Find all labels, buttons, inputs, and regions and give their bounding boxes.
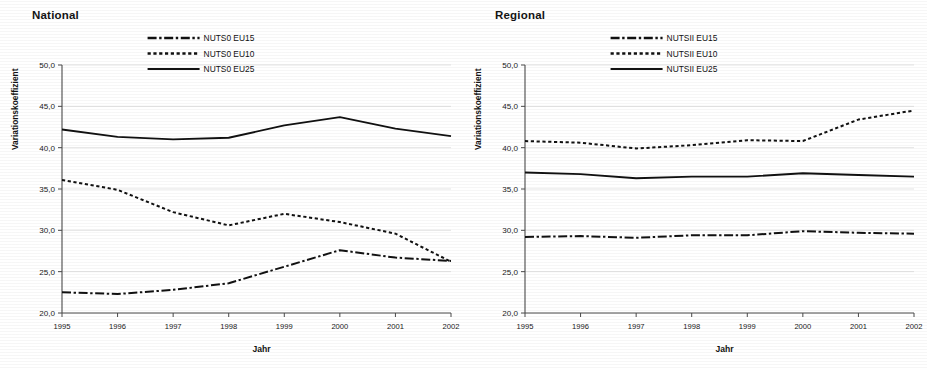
y-tick-label: 20,0 bbox=[502, 309, 518, 318]
x-tick-label: 2002 bbox=[443, 322, 460, 331]
y-tick-label: 35,0 bbox=[39, 185, 55, 194]
x-tick-label: 2000 bbox=[794, 322, 811, 331]
x-axis-label-text-national: Jahr bbox=[252, 344, 270, 354]
y-tick-label: 40,0 bbox=[502, 144, 518, 153]
series-line-nutsii-eu15 bbox=[525, 231, 914, 238]
series-line-nutsii-eu25 bbox=[525, 172, 914, 178]
legend-label-nutsii-eu25: NUTSII EU25 bbox=[667, 64, 718, 74]
y-tick-label: 35,0 bbox=[502, 185, 518, 194]
x-tick-label: 1999 bbox=[276, 322, 293, 331]
x-tick-label: 1995 bbox=[517, 322, 534, 331]
y-tick-label: 20,0 bbox=[39, 309, 55, 318]
legend-label-nuts0-eu10: NUTS0 EU10 bbox=[204, 49, 255, 59]
x-tick-label: 1996 bbox=[572, 322, 589, 331]
series-line-nutsii-eu10 bbox=[525, 110, 914, 148]
x-tick-label: 1995 bbox=[54, 322, 71, 331]
chart-svg-national: 20,025,030,035,040,045,050,0199519961997… bbox=[0, 0, 463, 368]
x-tick-label: 2000 bbox=[331, 322, 348, 331]
x-tick-label: 1999 bbox=[739, 322, 756, 331]
y-tick-label: 50,0 bbox=[502, 61, 518, 70]
series-line-nuts0-eu10 bbox=[62, 180, 451, 262]
legend-label-nutsii-eu10: NUTSII EU10 bbox=[667, 49, 718, 59]
x-tick-label: 1997 bbox=[628, 322, 645, 331]
x-axis-label-text-regional: Jahr bbox=[715, 344, 733, 354]
figure-two-panel-line-charts: National 20,025,030,035,040,045,050,0199… bbox=[0, 0, 927, 368]
series-line-nuts0-eu15 bbox=[62, 250, 451, 294]
y-tick-label: 30,0 bbox=[502, 226, 518, 235]
panel-national: National 20,025,030,035,040,045,050,0199… bbox=[0, 0, 463, 368]
x-tick-label: 1996 bbox=[109, 322, 126, 331]
plot-area-national: 20,025,030,035,040,045,050,0199519961997… bbox=[0, 0, 463, 368]
y-tick-label: 40,0 bbox=[39, 144, 55, 153]
legend-label-nutsii-eu15: NUTSII EU15 bbox=[667, 33, 718, 43]
chart-svg-regional: 20,025,030,035,040,045,050,0199519961997… bbox=[463, 0, 926, 368]
legend-label-nuts0-eu25: NUTS0 EU25 bbox=[204, 64, 255, 74]
x-tick-label: 2002 bbox=[906, 322, 923, 331]
x-tick-label: 2001 bbox=[387, 322, 404, 331]
x-axis-label-regional: Jahr bbox=[493, 344, 927, 354]
series-line-nuts0-eu25 bbox=[62, 117, 451, 139]
y-tick-label: 50,0 bbox=[39, 61, 55, 70]
panel-regional: Regional 20,025,030,035,040,045,050,0199… bbox=[463, 0, 926, 368]
x-tick-label: 1998 bbox=[220, 322, 237, 331]
x-tick-label: 1998 bbox=[683, 322, 700, 331]
y-tick-label: 25,0 bbox=[502, 268, 518, 277]
x-axis-label-national: Jahr bbox=[30, 344, 493, 354]
y-axis-label-regional: Variationskoeffizient bbox=[473, 69, 483, 150]
y-tick-label: 45,0 bbox=[502, 102, 518, 111]
y-axis-label-national: Variationskoeffizient bbox=[10, 69, 20, 150]
y-tick-label: 30,0 bbox=[39, 226, 55, 235]
y-tick-label: 25,0 bbox=[39, 268, 55, 277]
x-tick-label: 1997 bbox=[165, 322, 182, 331]
y-tick-label: 45,0 bbox=[39, 102, 55, 111]
plot-area-regional: 20,025,030,035,040,045,050,0199519961997… bbox=[463, 0, 926, 368]
x-tick-label: 2001 bbox=[850, 322, 867, 331]
legend-label-nuts0-eu15: NUTS0 EU15 bbox=[204, 33, 255, 43]
